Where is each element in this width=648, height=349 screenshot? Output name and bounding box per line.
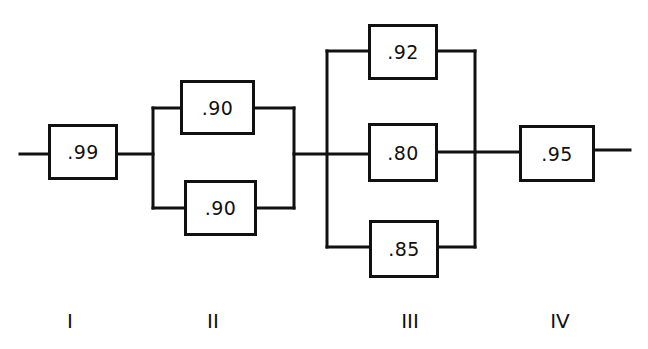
reliability-value: .90 (202, 97, 234, 119)
reliability-value: .99 (67, 141, 99, 163)
component-stage-2-bottom: .90 (184, 180, 257, 236)
component-stage-3-middle: .80 (368, 123, 438, 182)
reliability-value: .90 (205, 197, 237, 219)
component-stage-3-bottom: .85 (369, 220, 439, 278)
reliability-value: .92 (387, 41, 419, 63)
stage-label-1: I (67, 309, 73, 333)
component-stage-2-top: .90 (180, 80, 255, 135)
component-stage-3-top: .92 (368, 24, 438, 80)
reliability-value: .95 (541, 143, 573, 165)
reliability-value: .85 (388, 238, 420, 260)
stage-label-3: III (401, 309, 419, 333)
component-stage-1: .99 (48, 124, 118, 180)
component-stage-4: .95 (519, 125, 595, 182)
stage-label-2: II (207, 309, 219, 333)
stage-label-4: IV (550, 309, 570, 333)
reliability-value: .80 (387, 142, 419, 164)
